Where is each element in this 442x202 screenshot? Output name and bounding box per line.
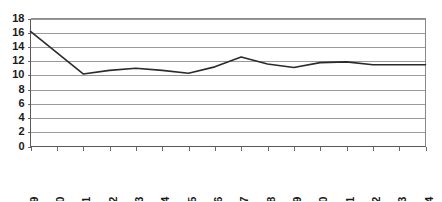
x-tick-label: 1992 xyxy=(107,197,119,202)
y-tick-label: 12 xyxy=(12,54,24,66)
y-tick-label: 2 xyxy=(18,125,24,137)
x-tick-label: 1996 xyxy=(212,197,224,202)
line-chart: 0246810121416181989199019911992199319941… xyxy=(0,0,442,201)
series-group xyxy=(31,31,426,74)
y-tick-label: 14 xyxy=(12,40,25,52)
x-tick-labels-group: 1989199019911992199319941995199619971998… xyxy=(28,147,435,202)
x-tick-label: 1993 xyxy=(133,197,145,202)
plot-frame-group xyxy=(31,19,426,147)
x-tick-label: 1990 xyxy=(54,197,66,202)
x-tick-label: 2000 xyxy=(317,197,329,202)
x-tick-label: 1991 xyxy=(80,197,92,202)
y-tick-label: 18 xyxy=(12,12,24,24)
y-tick-labels-group: 024681012141618 xyxy=(12,12,30,152)
y-tick-label: 0 xyxy=(18,140,24,152)
x-tick-label: 1997 xyxy=(238,197,250,202)
x-tick-label: 2004 xyxy=(423,196,435,201)
x-tick-label: 1998 xyxy=(265,197,277,202)
x-tick-label: 2001 xyxy=(344,197,356,202)
y-tick-label: 10 xyxy=(12,68,24,80)
gridlines-group xyxy=(31,20,426,133)
x-tick-label: 1994 xyxy=(159,196,171,201)
y-tick-label: 16 xyxy=(12,26,24,38)
x-tick-label: 2002 xyxy=(370,197,382,202)
y-tick-label: 4 xyxy=(18,111,25,123)
x-tick-label: 1999 xyxy=(291,197,303,202)
x-tick-label: 1989 xyxy=(28,197,40,202)
series-line-1 xyxy=(31,31,426,74)
y-tick-label: 6 xyxy=(18,97,24,109)
x-tick-label: 1995 xyxy=(186,197,198,202)
x-tick-label: 2003 xyxy=(396,197,408,202)
y-tick-label: 8 xyxy=(18,83,24,95)
chart-canvas: 0246810121416181989199019911992199319941… xyxy=(0,0,442,201)
